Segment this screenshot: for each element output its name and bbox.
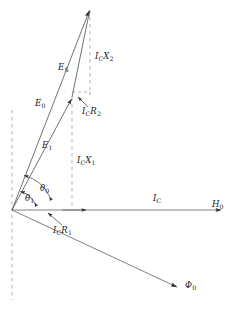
label-theta1: θ1	[25, 194, 34, 203]
vector-e1	[12, 99, 72, 210]
label-es: ES	[58, 63, 69, 72]
label-ic: IC	[153, 194, 161, 203]
dashed-bracket-icr2	[72, 92, 90, 96]
vector-e0	[12, 11, 89, 211]
label-icr1: ICR1	[53, 226, 72, 235]
diagram-canvas	[0, 0, 235, 321]
label-theta0: θ0	[40, 184, 49, 193]
label-e1: E1	[42, 141, 52, 150]
label-icr2: ICR2	[82, 107, 101, 116]
label-phi0: Φ0	[185, 281, 196, 290]
label-icx1: ICX1	[77, 156, 95, 165]
label-h0: H0	[212, 200, 224, 209]
leader-icr1	[48, 213, 62, 225]
vector-es	[72, 11, 90, 97]
phasor-diagram-figure: ICX2 ES E0 E1 ICR2 ICX1 θ0 θ1 ICR1 IC H0…	[0, 0, 235, 321]
vector-phi0	[12, 210, 177, 287]
label-e0: E0	[35, 99, 45, 108]
label-icx2: ICX2	[95, 52, 113, 61]
